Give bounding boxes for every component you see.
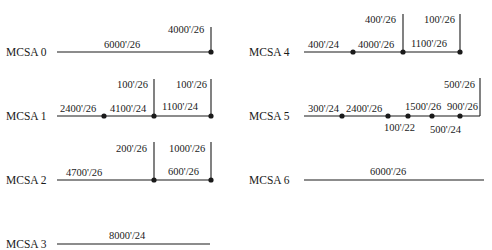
- mcsa-2-segment-1: 4700'/26: [66, 167, 102, 178]
- mcsa-5-branch-1: 500'/26: [444, 79, 475, 90]
- junction-dot: [457, 49, 462, 54]
- mcsa-5-below-1: 100'/22: [384, 122, 415, 133]
- mcsa-4-label: MCSA 4: [249, 46, 290, 58]
- mcsa-0-branch-1: 4000'/26: [168, 24, 204, 35]
- mcsa-4-loop: MCSA 4 400'/24 4000'/26 1100'/26 400'/26…: [249, 14, 463, 58]
- mcsa-1-branch-1: 100'/26: [117, 79, 148, 90]
- junction-dot: [339, 113, 344, 118]
- junction-dot: [208, 177, 213, 182]
- mcsa-0-segment-1: 6000'/26: [104, 39, 140, 50]
- junction-dot: [350, 49, 355, 54]
- mcsa-0-label: MCSA 0: [6, 46, 47, 58]
- mcsa-5-below-2: 500'/24: [430, 124, 462, 135]
- mcsa-3-segment-1: 8000'/24: [109, 230, 146, 241]
- junction-dot: [208, 49, 213, 54]
- mcsa-2-label: MCSA 2: [6, 174, 47, 186]
- mcsa-1-segment-3: 1100'/24: [162, 101, 199, 112]
- loop-diagram: MCSA 0 6000'/26 4000'/26 MCSA 1 2400'/26…: [0, 0, 492, 250]
- mcsa-1-label: MCSA 1: [6, 110, 47, 122]
- mcsa-5-segment-4: 900'/26: [447, 101, 478, 112]
- junction-dot: [101, 113, 106, 118]
- mcsa-5-segment-3: 1500'/26: [405, 101, 441, 112]
- junction-dot: [400, 49, 405, 54]
- mcsa-5-segment-1: 300'/24: [308, 103, 340, 114]
- mcsa-4-segment-3: 1100'/26: [411, 38, 447, 49]
- junction-dot: [405, 113, 410, 118]
- mcsa-2-branch-1: 200'/26: [116, 143, 147, 154]
- junction-dot: [457, 113, 462, 118]
- mcsa-3-loop: MCSA 3 8000'/24: [6, 230, 210, 250]
- junction-dot: [385, 113, 390, 118]
- junction-dot: [429, 113, 434, 118]
- mcsa-3-label: MCSA 3: [6, 238, 47, 250]
- mcsa-5-segment-2: 2400'/26: [346, 103, 382, 114]
- mcsa-4-branch-1: 400'/26: [365, 14, 396, 25]
- mcsa-4-branch-2: 100'/26: [424, 14, 455, 25]
- mcsa-0-loop: MCSA 0 6000'/26 4000'/26: [6, 24, 214, 58]
- mcsa-1-segment-1: 2400'/26: [60, 103, 96, 114]
- mcsa-2-branch-2: 1000'/26: [169, 143, 205, 154]
- mcsa-4-segment-1: 400'/24: [308, 39, 340, 50]
- mcsa-6-segment-1: 6000'/26: [370, 166, 406, 177]
- mcsa-6-loop: MCSA 6 6000'/26: [249, 166, 484, 186]
- junction-dot: [208, 113, 213, 118]
- mcsa-6-label: MCSA 6: [249, 174, 290, 186]
- mcsa-1-branch-2: 100'/26: [176, 79, 207, 90]
- mcsa-4-segment-2: 4000'/26: [358, 39, 394, 50]
- mcsa-1-loop: MCSA 1 2400'/26 4100'/24 1100'/24 100'/2…: [6, 79, 214, 122]
- junction-dot: [151, 113, 156, 118]
- mcsa-2-loop: MCSA 2 4700'/26 600'/26 200'/26 1000'/26: [6, 142, 214, 186]
- mcsa-5-loop: MCSA 5 300'/24 2400'/26 1500'/26 900'/26…: [249, 78, 480, 135]
- mcsa-1-segment-2: 4100'/24: [110, 103, 147, 114]
- mcsa-5-label: MCSA 5: [249, 110, 290, 122]
- junction-dot: [151, 177, 156, 182]
- mcsa-2-segment-2: 600'/26: [168, 166, 199, 177]
